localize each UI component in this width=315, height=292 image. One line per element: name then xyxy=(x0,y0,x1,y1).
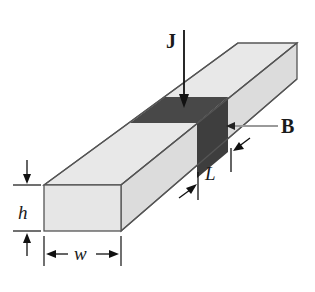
label-w: w xyxy=(74,243,87,264)
conductor-bar-diagram: J B L h w xyxy=(0,0,315,292)
label-l: L xyxy=(204,163,216,184)
bar-front-face xyxy=(44,185,121,231)
magnetic-field-pointer xyxy=(226,122,278,130)
label-b: B xyxy=(281,115,294,137)
label-h: h xyxy=(18,202,28,223)
label-j: J xyxy=(166,30,176,52)
current-density-arrow xyxy=(179,30,189,108)
